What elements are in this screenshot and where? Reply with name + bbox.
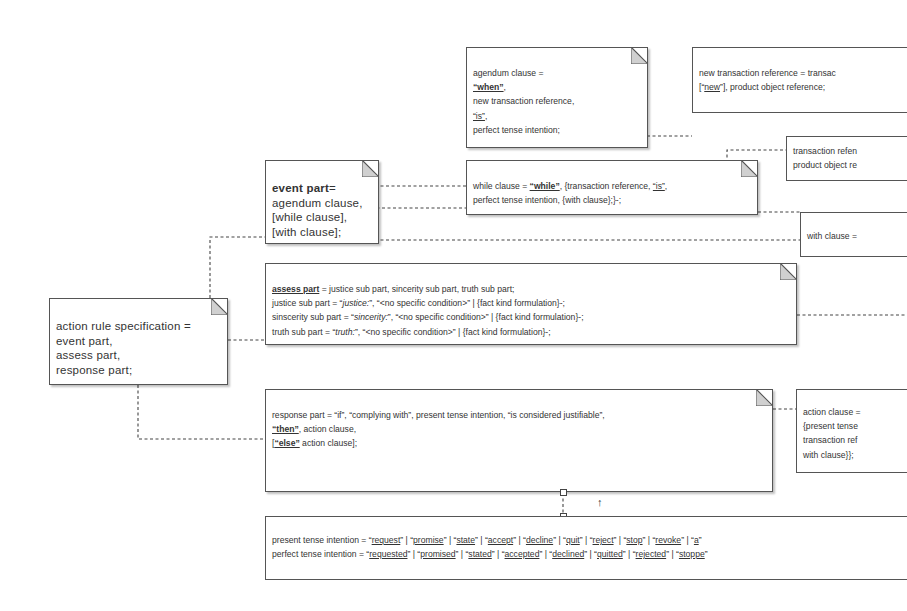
event-part-eq: = xyxy=(329,182,336,194)
intention-keyword: reject xyxy=(593,535,614,545)
response-part-note[interactable]: response part = “if”, “complying with”, … xyxy=(265,389,773,492)
action-clause-note[interactable]: action clause = {present tense transacti… xyxy=(796,389,907,473)
intention-keyword: rejected xyxy=(636,549,667,559)
truth-rest: ”, “<no specific condition>” | {fact kin… xyxy=(355,327,551,337)
intention-keyword: declined xyxy=(552,549,584,559)
justice-keyword: justice: xyxy=(342,298,369,308)
new-transaction-line: new transaction reference = transac xyxy=(699,66,901,80)
justice-rest: ”, “<no specific condition>” | {fact kin… xyxy=(369,298,565,308)
intention-keyword: accepted xyxy=(505,549,540,559)
event-part-note[interactable]: event part= agendum clause, [while claus… xyxy=(265,160,379,244)
action-rule-specification-note[interactable]: action rule specification = event part, … xyxy=(49,298,228,385)
intention-keyword: promised xyxy=(420,549,455,559)
intention-keyword: a xyxy=(694,535,699,545)
folded-corner-icon xyxy=(741,160,758,177)
present-prefix: present tense intention = xyxy=(272,535,369,545)
intention-keyword: requested xyxy=(369,549,407,559)
action-rule-line: response part; xyxy=(56,363,221,378)
then-keyword: “then” xyxy=(272,424,299,434)
agendum-clause-note[interactable]: agendum clause = “when”, new transaction… xyxy=(466,47,648,148)
sincerity-keyword: sincerity: xyxy=(354,312,388,322)
folded-corner-icon xyxy=(211,298,228,315)
while-prefix: while clause = xyxy=(473,181,530,191)
intention-keyword: stop xyxy=(626,535,642,545)
up-arrow-icon: ↑ xyxy=(597,496,603,508)
perfect-values: “requested” | “promised” | “stated” | “a… xyxy=(366,549,707,559)
agendum-line: agendum clause = xyxy=(473,66,641,80)
intention-keyword: accept xyxy=(488,535,513,545)
connector-handle-top[interactable] xyxy=(560,489,567,496)
folded-corner-icon xyxy=(631,47,648,64)
assess-part-note[interactable]: assess part = justice sub part, sincerit… xyxy=(265,263,797,345)
intention-keyword: quit xyxy=(566,535,580,545)
action-clause-line: with clause}}; xyxy=(803,448,901,462)
event-part-line: agendum clause, xyxy=(272,196,372,211)
intention-keyword: quitted xyxy=(597,549,623,559)
agendum-comma: , xyxy=(504,82,506,92)
present-values: “request” | “promise” | “state” | “accep… xyxy=(369,535,702,545)
intention-keyword: request xyxy=(372,535,401,545)
else-keyword: “else” xyxy=(274,438,299,448)
event-part-head: event part xyxy=(272,182,329,194)
transaction-reference-note[interactable]: transaction refen product object re xyxy=(786,136,907,181)
transaction-reference-line: transaction refen xyxy=(793,144,901,158)
while-end: , xyxy=(665,181,667,191)
action-clause-line: transaction ref xyxy=(803,433,901,447)
with-clause-line: with clause = xyxy=(807,229,901,243)
while-keyword: “while” xyxy=(530,181,560,191)
with-clause-note[interactable]: with clause = xyxy=(800,212,907,257)
response-line: response part = “if”, “complying with”, … xyxy=(272,408,766,422)
action-rule-line: event part, xyxy=(56,334,221,349)
action-rule-line: assess part, xyxy=(56,348,221,363)
when-keyword: “when” xyxy=(473,82,504,92)
folded-corner-icon xyxy=(780,263,797,280)
perfect-tense-row: perfect tense intention = “requested” | … xyxy=(272,547,901,561)
truth-keyword: truth: xyxy=(335,327,355,337)
intention-keyword: stoppe xyxy=(679,549,705,559)
while-line: perfect tense intention, {with clause};}… xyxy=(473,193,751,207)
sincerity-prefix: sinscerity sub part = “ xyxy=(272,312,354,322)
tense-intentions-note[interactable]: present tense intention = “request” | “p… xyxy=(265,516,907,580)
agendum-line: perfect tense intention; xyxy=(473,123,641,137)
present-tense-row: present tense intention = “request” | “p… xyxy=(272,533,901,547)
assess-part-head: assess part xyxy=(272,284,319,294)
action-rule-line: action rule specification = xyxy=(56,319,221,334)
folded-corner-icon xyxy=(362,160,379,177)
while-clause-note[interactable]: while clause = “while”, {transaction ref… xyxy=(466,160,758,215)
justice-prefix: justice sub part = “ xyxy=(272,298,342,308)
intention-keyword: decline xyxy=(526,535,553,545)
perfect-prefix: perfect tense intention = xyxy=(272,549,366,559)
else-rest: action clause]; xyxy=(300,438,357,448)
transaction-reference-line: product object re xyxy=(793,158,901,172)
truth-prefix: truth sub part = “ xyxy=(272,327,335,337)
new-transaction-reference-note[interactable]: new transaction reference = transac [“ne… xyxy=(692,47,907,113)
assess-part-rest: = justice sub part, sincerity sub part, … xyxy=(319,284,514,294)
new-keyword: new xyxy=(704,82,720,92)
action-clause-line: {present tense xyxy=(803,419,901,433)
agendum-line: new transaction reference, xyxy=(473,94,641,108)
action-clause-line: action clause = xyxy=(803,405,901,419)
is-keyword: “is” xyxy=(653,181,665,191)
event-part-line: [with clause]; xyxy=(272,225,372,240)
intention-keyword: state xyxy=(456,535,475,545)
intention-keyword: stated xyxy=(468,549,491,559)
intention-keyword: promise xyxy=(413,535,444,545)
sincerity-rest: ”, “<no specific condition>” | {fact kin… xyxy=(388,312,584,322)
is-keyword: “is” xyxy=(473,111,485,121)
then-rest: , action clause, xyxy=(299,424,356,434)
agendum-comma: , xyxy=(485,111,487,121)
folded-corner-icon xyxy=(756,389,773,406)
while-mid: , {transaction reference, xyxy=(560,181,653,191)
event-part-line: [while clause], xyxy=(272,210,372,225)
intention-keyword: revoke xyxy=(655,535,681,545)
new-transaction-rest: ”], product object reference; xyxy=(720,82,825,92)
